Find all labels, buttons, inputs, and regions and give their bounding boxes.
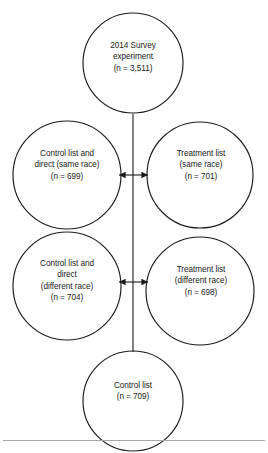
node-circle-treatment-same-race	[147, 122, 253, 228]
node-circle-control-list	[83, 351, 183, 451]
node-circle-survey-experiment	[83, 13, 183, 113]
diagram-graphics	[0, 0, 268, 453]
flow-diagram: 2014 Survey experiment (n = 3,511) Contr…	[0, 0, 268, 453]
node-circle-control-same-race	[13, 121, 121, 229]
node-circle-control-different-race	[13, 232, 121, 340]
node-circle-treatment-different-race	[146, 237, 254, 345]
bottom-divider	[3, 440, 265, 441]
